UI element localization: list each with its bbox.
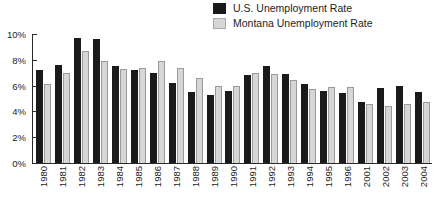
bar-us bbox=[36, 70, 43, 163]
bar-us bbox=[301, 84, 308, 163]
bar-montana bbox=[347, 87, 354, 163]
bar-us bbox=[207, 95, 214, 163]
bar-montana bbox=[215, 86, 222, 163]
bar-group bbox=[337, 34, 356, 163]
bar-group bbox=[91, 34, 110, 163]
bar-group bbox=[242, 34, 261, 163]
x-tick-label: 1991 bbox=[247, 166, 258, 187]
legend-item-montana: Montana Unemployment Rate bbox=[213, 17, 373, 29]
bar-group bbox=[356, 34, 375, 163]
y-axis-line bbox=[32, 34, 33, 164]
bar-montana bbox=[366, 104, 373, 163]
bar-group bbox=[110, 34, 129, 163]
bars-container bbox=[34, 34, 432, 163]
x-tick-label: 1994 bbox=[304, 166, 315, 187]
us-swatch-icon bbox=[213, 3, 226, 14]
bar-group bbox=[72, 34, 91, 163]
y-tick-mark bbox=[33, 34, 37, 35]
bar-us bbox=[112, 66, 119, 163]
bar-us bbox=[225, 91, 232, 163]
x-tick-label: 1983 bbox=[95, 166, 106, 187]
bar-group bbox=[129, 34, 148, 163]
plot-area: 0%2%4%6%8%10% 19801981198219831984198519… bbox=[0, 30, 436, 201]
bar-group bbox=[53, 34, 72, 163]
montana-swatch-icon bbox=[213, 18, 226, 29]
x-tick-label: 1985 bbox=[133, 166, 144, 187]
bar-montana bbox=[158, 61, 165, 163]
bar-montana bbox=[177, 68, 184, 163]
x-tick-label: 1995 bbox=[323, 166, 334, 187]
bar-group bbox=[318, 34, 337, 163]
y-axis: 0%2%4%6%8%10% bbox=[0, 30, 30, 164]
bar-group bbox=[148, 34, 167, 163]
bar-us bbox=[93, 39, 100, 163]
bar-montana bbox=[404, 104, 411, 163]
bar-montana bbox=[101, 61, 108, 163]
y-tick-mark bbox=[33, 86, 37, 87]
bar-us bbox=[74, 38, 81, 163]
bar-group bbox=[261, 34, 280, 163]
bar-group bbox=[205, 34, 224, 163]
y-tick-label: 10% bbox=[7, 29, 26, 40]
x-axis-line bbox=[32, 163, 432, 164]
y-tick-label: 6% bbox=[12, 80, 26, 91]
bar-us bbox=[188, 92, 195, 163]
x-tick-label: 1993 bbox=[285, 166, 296, 187]
bar-group bbox=[224, 34, 243, 163]
bar-us bbox=[358, 102, 365, 163]
y-tick-label: 4% bbox=[12, 106, 26, 117]
bar-montana bbox=[196, 78, 203, 163]
y-tick-mark bbox=[33, 60, 37, 61]
x-tick-label: 1981 bbox=[57, 166, 68, 187]
y-tick-mark bbox=[33, 137, 37, 138]
y-tick-label: 2% bbox=[12, 132, 26, 143]
bar-montana bbox=[271, 74, 278, 163]
bar-montana bbox=[44, 84, 51, 163]
bar-us bbox=[320, 91, 327, 163]
bar-group bbox=[299, 34, 318, 163]
bar-us bbox=[169, 83, 176, 163]
bar-group bbox=[167, 34, 186, 163]
x-tick-label: 1988 bbox=[190, 166, 201, 187]
bar-us bbox=[131, 70, 138, 163]
bar-us bbox=[55, 65, 62, 163]
bar-montana bbox=[139, 68, 146, 163]
bar-us bbox=[244, 75, 251, 163]
bar-group bbox=[280, 34, 299, 163]
x-tick-label: 1987 bbox=[171, 166, 182, 187]
legend-label-us: U.S. Unemployment Rate bbox=[233, 3, 352, 14]
bar-us bbox=[282, 74, 289, 163]
chart-legend: U.S. Unemployment Rate Montana Unemploym… bbox=[213, 2, 373, 29]
x-tick-label: 2003 bbox=[399, 166, 410, 187]
x-tick-label: 1986 bbox=[152, 166, 163, 187]
bar-us bbox=[339, 93, 346, 163]
bar-montana bbox=[290, 80, 297, 163]
legend-label-montana: Montana Unemployment Rate bbox=[233, 18, 373, 29]
unemployment-bar-chart: U.S. Unemployment Rate Montana Unemploym… bbox=[0, 0, 436, 201]
bar-montana bbox=[423, 102, 430, 163]
y-tick-label: 8% bbox=[12, 54, 26, 65]
bar-montana bbox=[385, 106, 392, 163]
bar-us bbox=[263, 66, 270, 163]
y-tick-mark bbox=[33, 111, 37, 112]
bar-montana bbox=[233, 86, 240, 163]
bar-montana bbox=[120, 69, 127, 163]
bar-montana bbox=[82, 51, 89, 163]
x-tick-label: 1982 bbox=[76, 166, 87, 187]
x-axis: 1980198119821983198419851986198719881989… bbox=[34, 166, 432, 201]
bar-montana bbox=[63, 73, 70, 163]
x-tick-label: 2001 bbox=[361, 166, 372, 187]
bar-us bbox=[415, 92, 422, 163]
bar-group bbox=[186, 34, 205, 163]
x-tick-label: 2004 bbox=[418, 166, 429, 187]
bar-group bbox=[394, 34, 413, 163]
bar-group bbox=[413, 34, 432, 163]
x-tick-label: 1984 bbox=[114, 166, 125, 187]
bar-montana bbox=[328, 87, 335, 163]
x-tick-label: 1990 bbox=[228, 166, 239, 187]
bar-montana bbox=[309, 89, 316, 163]
bar-group bbox=[34, 34, 53, 163]
bar-us bbox=[150, 73, 157, 163]
x-tick-label: 1980 bbox=[38, 166, 49, 187]
bar-us bbox=[377, 88, 384, 163]
